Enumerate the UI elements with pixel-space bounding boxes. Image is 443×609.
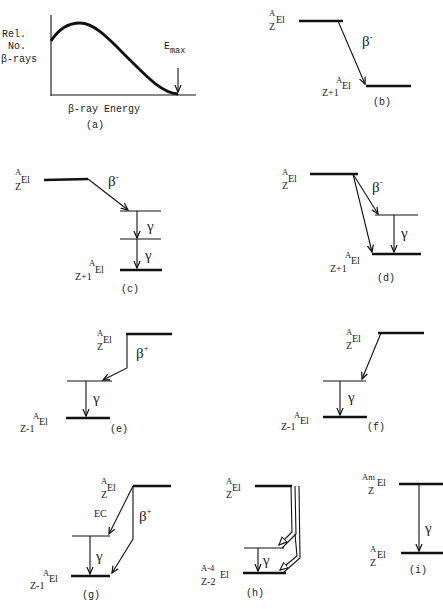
ylabel-line-2: No. xyxy=(8,41,26,52)
svg-text:El: El xyxy=(288,173,297,184)
svg-text:Z-2: Z-2 xyxy=(201,576,215,587)
alpha-arrow-excited-a xyxy=(279,486,292,545)
svg-text:El: El xyxy=(220,569,229,580)
caption-i: (i) xyxy=(409,565,427,576)
svg-text:A: A xyxy=(370,544,377,554)
svg-text:El: El xyxy=(103,334,112,345)
svg-text:El: El xyxy=(49,573,58,584)
svg-text:El: El xyxy=(21,174,30,185)
svg-text:Z: Z xyxy=(15,181,21,192)
ylabel-line-1: Rel. xyxy=(2,29,26,40)
panel-d-beta-minus-branching: A El Z β- γ A El Z+1 (d) xyxy=(282,167,421,284)
svg-text:γ: γ xyxy=(400,225,408,241)
beta-label: β- xyxy=(108,172,119,189)
svg-text:Am: Am xyxy=(362,472,375,482)
panel-b-beta-minus: A El Z β- A El Z+1 (b) xyxy=(269,8,411,108)
svg-text:Z: Z xyxy=(97,341,103,352)
svg-text:El: El xyxy=(377,477,386,488)
svg-text:Z+1: Z+1 xyxy=(75,271,92,282)
svg-text:γ: γ xyxy=(95,548,103,564)
ec-arrow xyxy=(109,486,133,534)
svg-text:Z-1: Z-1 xyxy=(30,580,44,591)
svg-text:Z-1: Z-1 xyxy=(281,421,295,432)
panel-g-ec-and-beta-plus: A El Z EC β+ γ A El Z-1 (g) xyxy=(30,476,171,601)
caption-e: (e) xyxy=(110,424,128,435)
caption-g: (g) xyxy=(82,590,100,601)
beta-plus-arrow xyxy=(112,486,133,573)
panel-e-beta-plus: A El Z β+ γ A El Z-1 (e) xyxy=(20,328,172,435)
svg-text:γ: γ xyxy=(424,520,432,536)
svg-text:Z: Z xyxy=(269,21,275,32)
beta-label: β+ xyxy=(139,506,152,524)
svg-text:El: El xyxy=(107,482,116,493)
panel-f-electron-capture: A El Z γ A El Z-1 (f) xyxy=(281,327,424,433)
panel-i-isomeric-transition: Am El Z γ A El Z (i) xyxy=(362,472,443,576)
caption-f: (f) xyxy=(367,422,385,433)
svg-text:γ: γ xyxy=(262,552,270,568)
decay-schemes-figure: Rel. No. β-rays Emax β-ray Energy (a) A … xyxy=(0,0,443,609)
xlabel: β-ray Energy xyxy=(68,104,140,115)
svg-text:Z: Z xyxy=(101,489,107,500)
svg-text:γ: γ xyxy=(92,390,100,406)
caption-b: (b) xyxy=(373,97,391,108)
svg-text:El: El xyxy=(352,333,361,344)
svg-text:Z: Z xyxy=(282,180,288,191)
svg-text:Z: Z xyxy=(226,489,232,500)
svg-text:El: El xyxy=(300,415,309,426)
svg-text:El: El xyxy=(342,80,351,91)
caption-h: (h) xyxy=(246,588,264,599)
ylabel-line-3: β-rays xyxy=(1,54,37,65)
caption-a: (a) xyxy=(86,120,104,131)
svg-text:El: El xyxy=(377,549,386,560)
beta-arrow-ground xyxy=(353,174,372,252)
parent-level xyxy=(44,179,88,180)
panel-a-beta-spectrum: Rel. No. β-rays Emax β-ray Energy (a) xyxy=(1,15,196,131)
ec-arrow xyxy=(362,333,381,379)
svg-text:Z+1: Z+1 xyxy=(322,87,339,98)
panel-h-alpha-decay: A El Z γ A-4 El Z-2 (h) xyxy=(201,476,300,599)
svg-text:Z: Z xyxy=(346,340,352,351)
alpha-arrow-excited-b xyxy=(282,486,296,548)
spectrum-curve xyxy=(51,23,178,94)
svg-text:γ: γ xyxy=(146,218,154,234)
svg-text:A-4: A-4 xyxy=(201,563,215,573)
svg-text:El: El xyxy=(276,14,285,25)
svg-text:El: El xyxy=(39,416,48,427)
svg-text:Z+1: Z+1 xyxy=(330,263,347,274)
svg-text:Z-1: Z-1 xyxy=(20,423,34,434)
panel-c-beta-minus-gamma-cascade: A El Z β- γ γ A El Z+1 (c) xyxy=(15,167,162,295)
caption-c: (c) xyxy=(121,284,139,295)
svg-text:El: El xyxy=(351,255,360,266)
caption-d: (d) xyxy=(377,273,395,284)
svg-text:El: El xyxy=(232,482,241,493)
svg-text:A: A xyxy=(269,8,276,18)
svg-text:γ: γ xyxy=(347,389,355,405)
alpha-arrow-ground-a xyxy=(280,534,297,570)
beta-label: β- xyxy=(362,32,373,49)
svg-text:El: El xyxy=(95,264,104,275)
beta-label: β- xyxy=(372,177,383,195)
svg-text:γ: γ xyxy=(144,247,152,263)
ec-label: EC xyxy=(94,508,107,519)
svg-text:Z: Z xyxy=(368,485,374,496)
beta-label: β+ xyxy=(136,343,149,361)
svg-text:Z: Z xyxy=(370,557,376,568)
emax-label: Emax xyxy=(164,41,185,56)
